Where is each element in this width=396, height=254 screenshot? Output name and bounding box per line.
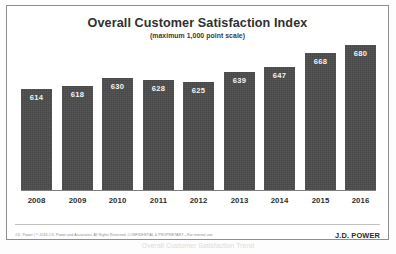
bar: 614	[21, 89, 52, 190]
chart-title: Overall Customer Satisfaction Index	[7, 16, 388, 30]
bar-value-label: 625	[183, 86, 214, 95]
x-axis-label: 2010	[102, 196, 133, 205]
bar-value-label: 618	[62, 90, 93, 99]
x-axis-label: 2012	[183, 196, 214, 205]
bar-group: 628	[143, 45, 174, 190]
footer-legal-text: J.D. Power | © 2016 J.D. Power and Assoc…	[15, 233, 213, 237]
bar-value-label: 668	[305, 57, 336, 66]
x-axis-label: 2011	[143, 196, 174, 205]
bar: 668	[305, 53, 336, 190]
x-axis-line	[21, 190, 376, 191]
jd-power-logo: J.D. POWER	[335, 231, 380, 240]
bar: 628	[143, 80, 174, 190]
x-axis-label: 2016	[345, 196, 376, 205]
bar-value-label: 628	[143, 84, 174, 93]
bar-group: 647	[264, 45, 295, 190]
bar-value-label: 639	[224, 76, 255, 85]
bar: 639	[224, 72, 255, 190]
title-block: Overall Customer Satisfaction Index (max…	[7, 16, 388, 39]
slide-frame: Overall Customer Satisfaction Index (max…	[6, 5, 389, 240]
x-axis-label: 2015	[305, 196, 336, 205]
bar-value-label: 647	[264, 71, 295, 80]
x-axis-label: 2008	[21, 196, 52, 205]
slide-footer: J.D. Power | © 2016 J.D. Power and Assoc…	[15, 229, 380, 241]
x-axis-label: 2014	[264, 196, 295, 205]
bar: 618	[62, 86, 93, 190]
bar-group: 680	[345, 45, 376, 190]
bar-value-label: 614	[21, 93, 52, 102]
scan-caption: Overall Customer Satisfaction Trend	[0, 242, 396, 249]
bar-group: 630	[102, 45, 133, 190]
bar: 625	[183, 82, 214, 190]
bar-chart-plot-area: 614618630628625639647668680	[21, 46, 376, 191]
x-axis-label: 2013	[224, 196, 255, 205]
scanned-page: Overall Customer Satisfaction Index (max…	[0, 0, 396, 254]
bar-group: 625	[183, 45, 214, 190]
footer-divider	[15, 224, 380, 225]
bar-group: 639	[224, 45, 255, 190]
x-axis-labels: 200820092010201120122013201420152016	[21, 196, 376, 210]
chart-subtitle: (maximum 1,000 point scale)	[7, 32, 388, 39]
bar-value-label: 680	[345, 49, 376, 58]
bar: 630	[102, 78, 133, 190]
bar-group: 618	[62, 45, 93, 190]
x-axis-label: 2009	[62, 196, 93, 205]
bar: 647	[264, 67, 295, 190]
bar-group: 614	[21, 45, 52, 190]
bar-value-label: 630	[102, 82, 133, 91]
bar-group: 668	[305, 45, 336, 190]
bar: 680	[345, 45, 376, 190]
